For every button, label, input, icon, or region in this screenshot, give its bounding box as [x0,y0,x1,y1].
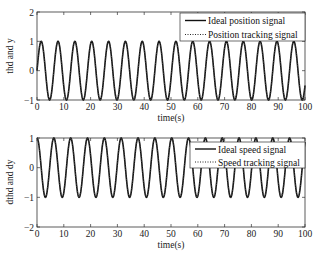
legend-entry: Position tracking signal [208,30,298,40]
x-tick-label: 20 [86,102,96,112]
x-tick-label: 60 [193,229,203,239]
x-tick-label: 80 [247,229,257,239]
x-tick-label: 80 [247,102,257,112]
x-tick-label: 20 [86,229,96,239]
y-tick-label: −1 [24,193,34,203]
x-tick-label: 50 [166,229,176,239]
legend: Ideal position signalPosition tracking s… [180,13,305,41]
position-plot: 0102030405060708090100−1012time(s)thd an… [5,8,312,125]
x-axis-label: time(s) [158,113,185,124]
legend-entry: Ideal position signal [208,16,285,26]
x-tick-label: 30 [113,102,123,112]
y-tick-label: −1 [24,96,34,106]
x-tick-label: 0 [35,229,40,239]
x-tick-label: 90 [273,229,283,239]
x-tick-label: 60 [193,102,203,112]
y-tick-label: 0 [29,66,34,76]
x-tick-label: 10 [59,229,69,239]
x-tick-label: 50 [166,102,176,112]
chart-canvas: 0102030405060708090100−1012time(s)thd an… [0,0,326,261]
x-tick-label: 30 [113,229,123,239]
y-axis-label: thd and y [5,38,15,74]
x-tick-label: 10 [59,102,69,112]
x-tick-label: 70 [220,102,230,112]
legend: Ideal speed signalSpeed tracking signal [190,142,305,168]
legend-entry: Ideal speed signal [218,145,286,155]
x-tick-label: 100 [298,102,313,112]
x-tick-label: 40 [139,229,149,239]
x-tick-label: 40 [139,102,149,112]
y-tick-label: 2 [29,8,34,18]
x-tick-label: 70 [220,229,230,239]
y-axis-label: dthd and dy [5,159,15,204]
legend-entry: Speed tracking signal [218,158,300,168]
x-tick-label: 0 [35,102,40,112]
y-tick-label: 1 [29,134,34,144]
y-tick-label: −2 [24,223,34,233]
y-tick-label: 1 [29,37,34,47]
x-axis-label: time(s) [158,240,185,251]
speed-plot: 0102030405060708090100−2−101time(s)dthd … [5,134,312,252]
x-tick-label: 90 [273,102,283,112]
y-tick-label: 0 [29,163,34,173]
x-tick-label: 100 [298,229,313,239]
